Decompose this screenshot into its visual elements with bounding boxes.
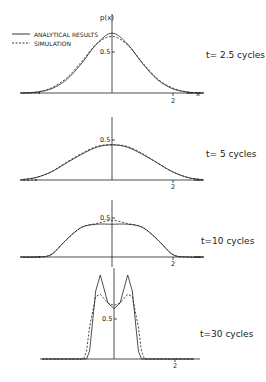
x-tick-label: 2 — [173, 362, 177, 370]
legend-label-simulation: SIMULATION — [34, 40, 71, 47]
panel-2: 0.52t= 5 cycles — [20, 117, 256, 191]
x-axis-label: x — [196, 90, 200, 98]
time-label: t= 5 cycles — [206, 149, 257, 159]
time-label: t=10 cycles — [201, 236, 255, 246]
time-label: t= 2.5 cycles — [206, 50, 265, 60]
legend-label-analytical: ANALYTICAL RESULTS — [34, 31, 98, 38]
panel-1: 0.52t= 2.5 cycles — [20, 14, 265, 105]
panel-4: 0.52t=30 cycles — [40, 268, 254, 370]
analytical-curve — [42, 275, 194, 359]
x-tick-label: 2 — [171, 183, 175, 191]
y-tick-label: 0.5 — [100, 136, 110, 144]
x-tick-label: 2 — [171, 260, 175, 268]
x-tick-label: 2 — [171, 97, 175, 105]
y-tick-label: 0.5 — [102, 315, 112, 323]
simulation-curve — [42, 294, 194, 359]
figure: ANALYTICAL RESULTS SIMULATION p(x) x 0.5… — [0, 0, 266, 382]
panel-3: 0.52t=10 cycles — [20, 200, 254, 268]
time-label: t=30 cycles — [200, 329, 254, 339]
y-tick-label: 0.5 — [100, 48, 110, 56]
legend: ANALYTICAL RESULTS SIMULATION — [12, 31, 98, 47]
